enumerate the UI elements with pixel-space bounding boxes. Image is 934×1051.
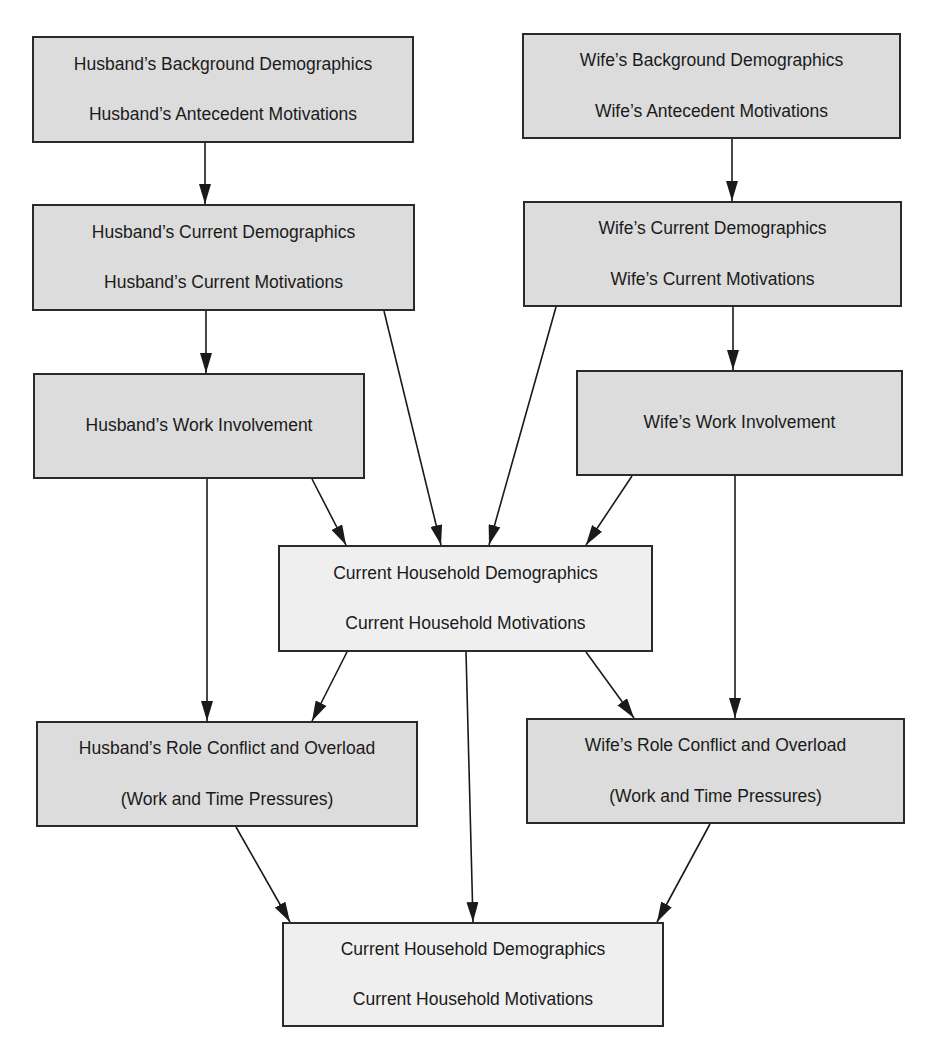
node-wife-background: Wife’s Background Demographics Wife’s An… xyxy=(522,33,901,139)
node-label: Wife’s Role Conflict and Overload xyxy=(585,737,846,755)
edge-husband-work-to-household xyxy=(312,479,346,545)
node-label: Current Household Motivations xyxy=(345,615,585,633)
node-label: Wife’s Work Involvement xyxy=(644,414,836,432)
node-husband-current: Husband’s Current Demographics Husband’s… xyxy=(32,204,415,311)
node-label: Husband’s Antecedent Motivations xyxy=(89,106,357,124)
node-label: Wife’s Antecedent Motivations xyxy=(595,103,828,121)
edge-wife-current-to-household xyxy=(489,307,556,545)
edge-household-to-wife-role-conflict xyxy=(586,652,634,718)
node-husband-background: Husband’s Background Demographics Husban… xyxy=(32,36,414,143)
node-label: Current Household Demographics xyxy=(341,941,606,959)
edge-husband-current-to-household xyxy=(384,311,441,545)
edge-husband-role-conflict-to-household-2 xyxy=(236,827,290,922)
node-label: Husband’s Current Demographics xyxy=(92,224,355,242)
edge-layer xyxy=(0,0,934,1051)
node-label: Wife’s Background Demographics xyxy=(580,52,843,70)
edge-wife-work-to-household xyxy=(586,476,632,545)
node-label: (Work and Time Pressures) xyxy=(121,791,334,809)
edge-household-1-to-household-2 xyxy=(466,652,473,922)
node-household-current-2: Current Household Demographics Current H… xyxy=(282,922,664,1027)
node-label: Wife’s Current Motivations xyxy=(611,271,815,289)
edge-household-to-husband-role-conflict xyxy=(312,652,347,721)
node-label: Husband’s Role Conflict and Overload xyxy=(79,740,375,758)
node-wife-current: Wife’s Current Demographics Wife’s Curre… xyxy=(523,201,902,307)
edge-wife-role-conflict-to-household-2 xyxy=(657,824,710,922)
node-husband-role-conflict: Husband’s Role Conflict and Overload (Wo… xyxy=(36,721,418,827)
node-label: Wife’s Current Demographics xyxy=(598,220,826,238)
node-label: (Work and Time Pressures) xyxy=(609,788,822,806)
node-label: Husband’s Work Involvement xyxy=(86,417,313,435)
node-label: Husband’s Current Motivations xyxy=(104,274,343,292)
node-label: Current Household Demographics xyxy=(333,565,598,583)
node-household-current-1: Current Household Demographics Current H… xyxy=(278,545,653,652)
node-label: Current Household Motivations xyxy=(353,991,593,1009)
node-label: Husband’s Background Demographics xyxy=(74,56,372,74)
node-husband-work: Husband’s Work Involvement xyxy=(33,373,365,479)
node-wife-role-conflict: Wife’s Role Conflict and Overload (Work … xyxy=(526,718,905,824)
node-wife-work: Wife’s Work Involvement xyxy=(576,370,903,476)
